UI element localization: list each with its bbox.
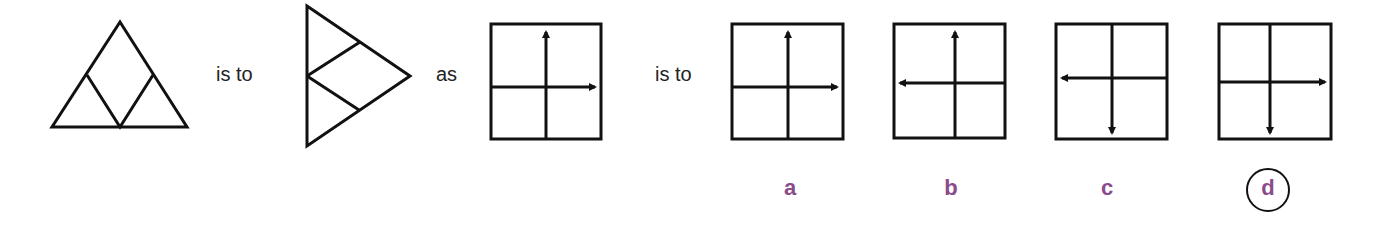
option-c-figure[interactable] <box>1056 24 1167 139</box>
analogy-figures <box>0 0 1377 229</box>
connector-as: as <box>436 63 457 86</box>
option-a-label[interactable]: a <box>770 175 810 201</box>
target-square-figure <box>491 24 601 139</box>
option-b-figure[interactable] <box>894 24 1005 138</box>
option-c-label[interactable]: c <box>1087 175 1127 201</box>
option-a-figure[interactable] <box>732 24 843 139</box>
selected-answer-circle <box>1246 168 1290 212</box>
connector-is-to-2: is to <box>655 63 692 86</box>
triangle-up-figure <box>52 22 187 127</box>
option-d-figure[interactable] <box>1219 24 1331 139</box>
triangle-right-figure <box>307 6 410 146</box>
connector-is-to-1: is to <box>216 63 253 86</box>
option-b-label[interactable]: b <box>931 175 971 201</box>
